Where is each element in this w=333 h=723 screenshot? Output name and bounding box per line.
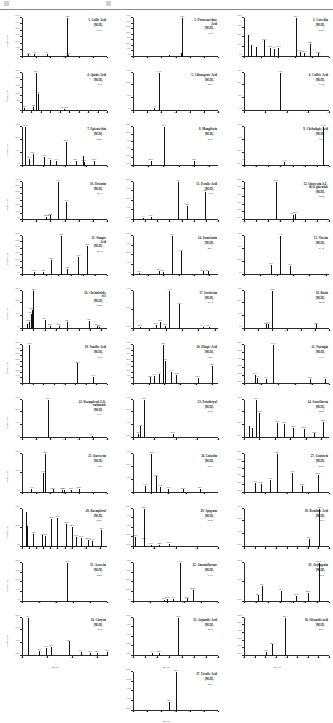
y-tick (20, 213, 22, 214)
y-tick-label: 1.0e6 (15, 313, 19, 315)
x-tick-label: 400 (197, 330, 200, 332)
x-tick-label: 300 (166, 602, 169, 604)
x-tick-label: 400 (192, 275, 195, 277)
y-tick (242, 520, 244, 521)
spectrum-peak (293, 428, 294, 438)
x-tick-label: 200 (153, 548, 156, 550)
spectrum-panel: Intensity, cps0.01.0e52.0e53.0e54.0e5200… (0, 559, 111, 614)
adduct-label: [M-H]- (94, 188, 103, 191)
peak-label: 524.0 (57, 324, 61, 326)
x-tick-label: 400 (255, 166, 258, 168)
spectrum-peak (69, 641, 70, 656)
spectrum-panel: 0.01.0e62.0e63.0e6100150200250300152.016… (111, 450, 222, 505)
x-tick-label: 100 (174, 57, 177, 59)
y-tick-label: 7.0e6 (15, 342, 19, 344)
y-tick-label: 2.0e5 (15, 204, 19, 206)
y-tick (20, 472, 22, 473)
y-tick (131, 200, 133, 201)
spectrum-panel: 0.01.0e62.0e63.0e64.0e620025030035040045… (111, 232, 222, 287)
compound-label: 29- Apigenin (200, 510, 217, 514)
x-tick-label: 140 (45, 275, 48, 277)
x-tick-label: 160 (87, 112, 90, 114)
spectrum-peak (259, 413, 260, 438)
compound-label: 1- Gallic Acid (88, 19, 106, 23)
y-tick (131, 235, 133, 236)
x-tick-label: 200 (149, 602, 152, 604)
peak-label: 133.0 (268, 478, 272, 480)
y-axis (244, 509, 245, 548)
y-tick (242, 46, 244, 47)
spectrum-peak (57, 518, 58, 547)
precursor-mass: 455.2 (319, 519, 324, 521)
peak-label: 284.0 (29, 308, 33, 310)
spectrum-peak (140, 426, 141, 438)
x-tick-label: 200 (132, 275, 135, 277)
spectrum-peak (272, 291, 273, 330)
x-tick-label: 540 (306, 657, 309, 659)
peak-label: 403.1 (43, 318, 47, 320)
y-tick-label: 0.0e0 (237, 435, 241, 437)
adduct-label: [M-H]- (94, 24, 103, 27)
peak-label: 409.3 (260, 584, 264, 586)
peak-label: 77.1 (142, 216, 145, 218)
spectrum-panel: 0.0e05.0e51.0e61.5e62.0e62.5e61002003004… (222, 341, 333, 396)
spectrum-peak (244, 161, 245, 166)
x-tick-label: 250 (274, 548, 277, 550)
compound-label: 24- Scutellarein (308, 401, 328, 405)
precursor-mass: 431.1 (208, 301, 213, 303)
x-tick-label: 500 (311, 384, 314, 386)
spectrum-peak (154, 376, 155, 384)
compound-label: 2- Protocatechuic Acid (194, 19, 217, 26)
peak-label: 167.0 (91, 375, 95, 377)
x-tick-label: 200 (96, 657, 99, 659)
x-tick-label: 800 (315, 221, 318, 223)
y-axis (133, 291, 134, 330)
x-tick-label: 500 (180, 657, 183, 659)
peak-label: 303.2 (105, 650, 109, 652)
spectrum-peak (285, 618, 286, 657)
x-tick-label: 240 (306, 493, 309, 495)
peak-label: 107.0 (259, 482, 263, 484)
y-tick-label: 4.0e6 (15, 259, 19, 261)
adduct-label: [M-H]- (205, 569, 214, 572)
x-tick-label: 500 (296, 657, 299, 659)
peak-label: 301.1 (242, 159, 246, 161)
y-axis (22, 127, 23, 166)
x-tick-label: 250 (311, 57, 314, 59)
x-tick-label: 40 (30, 112, 32, 114)
x-tick-label: 450 (317, 548, 320, 550)
peak-label: 125.2 (66, 53, 70, 55)
x-tick-label: 350 (181, 330, 184, 332)
peak-label: 341.0 (288, 264, 292, 266)
adduct-label: [M-H]- (94, 515, 103, 518)
peak-label: 431.1 (206, 325, 210, 327)
y-tick-label: 0.0e0 (126, 326, 130, 328)
y-tick (242, 424, 244, 425)
y-tick (20, 72, 22, 73)
peak-label: 150.8 (142, 538, 146, 540)
y-tick (131, 527, 133, 528)
y-axis (133, 345, 134, 384)
y-tick (20, 79, 22, 80)
x-tick-label: 450 (174, 711, 177, 713)
peak-label: 455.1 (283, 616, 287, 618)
peak-label: 790.1 (87, 319, 91, 321)
spectrum-peak (163, 272, 164, 275)
y-tick-label: 4.0e6 (15, 359, 19, 361)
x-tick-label: 150 (253, 548, 256, 550)
y-tick (20, 267, 22, 268)
spectrum-peak (325, 379, 326, 383)
spectrum-panel: 0.0e05.0e51.0e61.5e62.0e62.5e62003004005… (222, 178, 333, 233)
x-tick-label: 300 (49, 439, 52, 441)
spectrum-panel: 0.0e01.0e42.0e43804004204404604805005205… (222, 559, 333, 614)
y-tick (20, 290, 22, 291)
spectrum-panel: 0.05.0e51.0e61.5e6200250300350400450311.… (222, 232, 333, 287)
adduct-label: [M-H]- (205, 27, 214, 30)
peak-label: 298.0 (163, 324, 167, 326)
spectrum-peak (205, 192, 206, 220)
spectrum-peak (304, 53, 305, 57)
spectrum-peak (145, 486, 146, 493)
x-tick-label: 300 (162, 166, 165, 168)
x-tick-label: 500 (267, 166, 270, 168)
y-tick (131, 39, 133, 40)
